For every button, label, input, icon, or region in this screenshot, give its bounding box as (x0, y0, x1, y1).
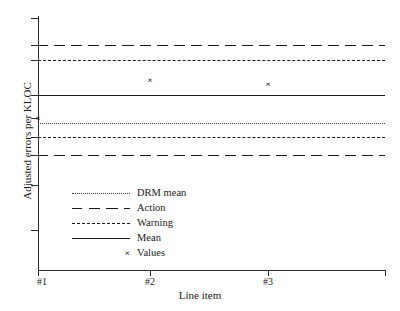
legend-item-drm-mean: DRM mean (72, 185, 186, 200)
x-axis-tick-label: #3 (263, 276, 273, 287)
x-axis-title: Line item (0, 289, 400, 301)
x-axis-tick (385, 270, 386, 276)
y-axis-tick (31, 18, 38, 19)
x-marker-key: × (72, 248, 130, 258)
short-dashed-line-key (72, 218, 130, 228)
long-dashed-line-key (72, 203, 130, 213)
solid-line-key (72, 233, 130, 243)
warning-limit-upper-line (38, 60, 385, 61)
y-axis-tick (31, 45, 38, 46)
y-axis-spine (38, 16, 39, 270)
y-axis-title: Adjusted errors per KLOC (21, 56, 33, 226)
x-axis-spine (38, 270, 385, 271)
legend-label: Mean (137, 232, 161, 243)
data-point-marker: × (35, 114, 40, 123)
dotted-line-key (72, 188, 130, 198)
x-marker-icon: × (125, 248, 130, 257)
legend-item-action: Action (72, 200, 186, 215)
chart-legend: DRM mean Action Warning Mean × Values (72, 185, 186, 260)
legend-item-warning: Warning (72, 215, 186, 230)
legend-label: Values (137, 247, 165, 258)
legend-label: DRM mean (137, 187, 186, 198)
legend-label: Warning (137, 217, 173, 228)
control-chart-figure: × × × DRM mean Action Warning Mean (0, 0, 400, 311)
mean-line (38, 95, 385, 96)
drm-mean-line (38, 123, 385, 124)
legend-item-mean: Mean (72, 230, 186, 245)
action-limit-upper-line (38, 45, 385, 46)
legend-item-values: × Values (72, 245, 186, 260)
y-axis-tick (31, 230, 38, 231)
x-axis-tick-label: #2 (145, 276, 155, 287)
legend-label: Action (137, 202, 166, 213)
data-point-marker: × (147, 76, 152, 85)
warning-limit-lower-line (38, 137, 385, 138)
action-limit-lower-line (38, 155, 385, 156)
data-point-marker: × (265, 80, 270, 89)
x-axis-tick-label: #1 (37, 276, 47, 287)
